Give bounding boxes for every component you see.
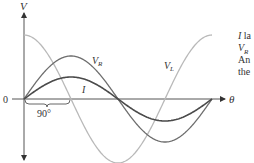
- vr-label: VR: [92, 55, 103, 68]
- side-line-3: An: [238, 54, 251, 66]
- phase-label: 90°: [37, 108, 51, 119]
- i-label: I: [81, 84, 86, 95]
- side-line-4: the: [238, 66, 251, 78]
- origin-label: 0: [3, 94, 8, 105]
- vl-label: VL: [164, 60, 174, 73]
- side-line-2: VR: [238, 42, 251, 54]
- side-text: I la VR An the: [238, 30, 251, 78]
- y-axis-label: V: [20, 0, 28, 12]
- side-line-1: I la: [238, 30, 251, 42]
- x-axis-label: θ: [229, 93, 235, 105]
- phase-bracket: [25, 100, 70, 107]
- phase-diagram: 90° 0 V θ VR I VL: [0, 0, 254, 163]
